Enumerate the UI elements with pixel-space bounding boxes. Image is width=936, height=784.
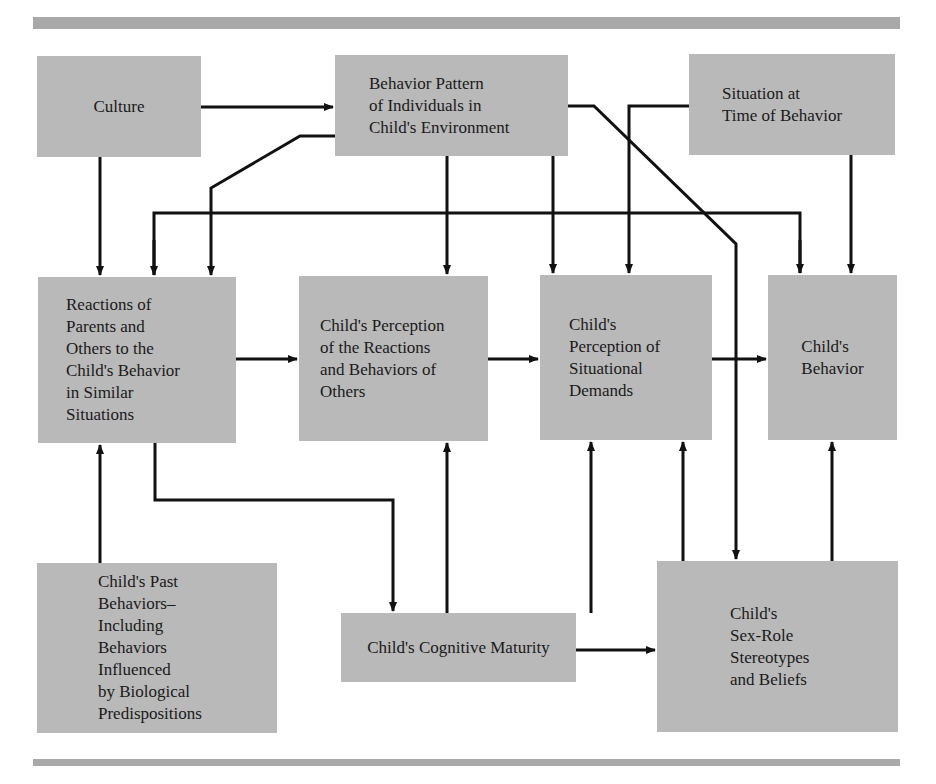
node-label: Behavior Pattern of Individuals in Child… (369, 73, 509, 139)
node-label: Reactions of Parents and Others to the C… (66, 294, 180, 426)
node-label: Child's Past Behaviors– Including Behavi… (98, 571, 202, 725)
node-past-behaviors: Child's Past Behaviors– Including Behavi… (37, 563, 277, 733)
node-situation: Situation at Time of Behavior (689, 54, 895, 155)
node-label: Child's Perception of the Reactions and … (320, 315, 444, 403)
edge-behavior-pattern-to-reactions (211, 136, 335, 275)
node-culture: Culture (37, 56, 201, 157)
node-child-behavior: Child's Behavior (768, 275, 897, 440)
node-label: Child's Cognitive Maturity (367, 637, 550, 659)
node-perception-reactions: Child's Perception of the Reactions and … (299, 276, 488, 441)
node-reactions: Reactions of Parents and Others to the C… (38, 277, 236, 443)
node-label: Situation at Time of Behavior (722, 83, 842, 127)
node-cognitive-maturity: Child's Cognitive Maturity (341, 613, 576, 682)
node-sex-role: Child's Sex-Role Stereotypes and Beliefs (657, 561, 898, 732)
node-label: Child's Behavior (801, 336, 863, 380)
node-behavior-pattern: Behavior Pattern of Individuals in Child… (335, 55, 568, 156)
node-label: Child's Perception of Situational Demand… (569, 314, 660, 402)
node-label: Culture (94, 96, 145, 118)
edge-feedback-line (154, 213, 800, 275)
node-label: Child's Sex-Role Stereotypes and Beliefs (730, 603, 809, 691)
node-perception-situational: Child's Perception of Situational Demand… (540, 275, 712, 440)
